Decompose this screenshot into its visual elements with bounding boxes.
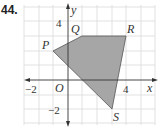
vertex-label-r: R bbox=[126, 22, 135, 36]
y-axis-label: y bbox=[70, 3, 77, 17]
y-tick-neg2: −2 bbox=[48, 104, 60, 116]
origin-label: O bbox=[55, 81, 64, 95]
x-tick-neg2: −2 bbox=[25, 83, 37, 95]
x-axis-label: x bbox=[146, 81, 153, 95]
shaded-quadrilateral-pqrs bbox=[53, 36, 126, 109]
y-tick-4: 4 bbox=[56, 17, 62, 29]
vertex-label-p: P bbox=[41, 38, 50, 52]
x-tick-4: 4 bbox=[123, 83, 129, 95]
vertex-label-q: Q bbox=[71, 22, 80, 36]
vertex-label-s: S bbox=[113, 110, 119, 124]
coordinate-plane: y x O 4 −2 −2 4 P Q R S bbox=[0, 0, 161, 129]
